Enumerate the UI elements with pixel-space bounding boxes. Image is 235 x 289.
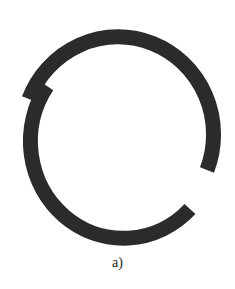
upper-ring-arc bbox=[29, 37, 214, 170]
split-ring-diagram bbox=[0, 0, 235, 289]
lower-ring-arc bbox=[30, 86, 190, 238]
figure-caption: a) bbox=[0, 255, 235, 271]
